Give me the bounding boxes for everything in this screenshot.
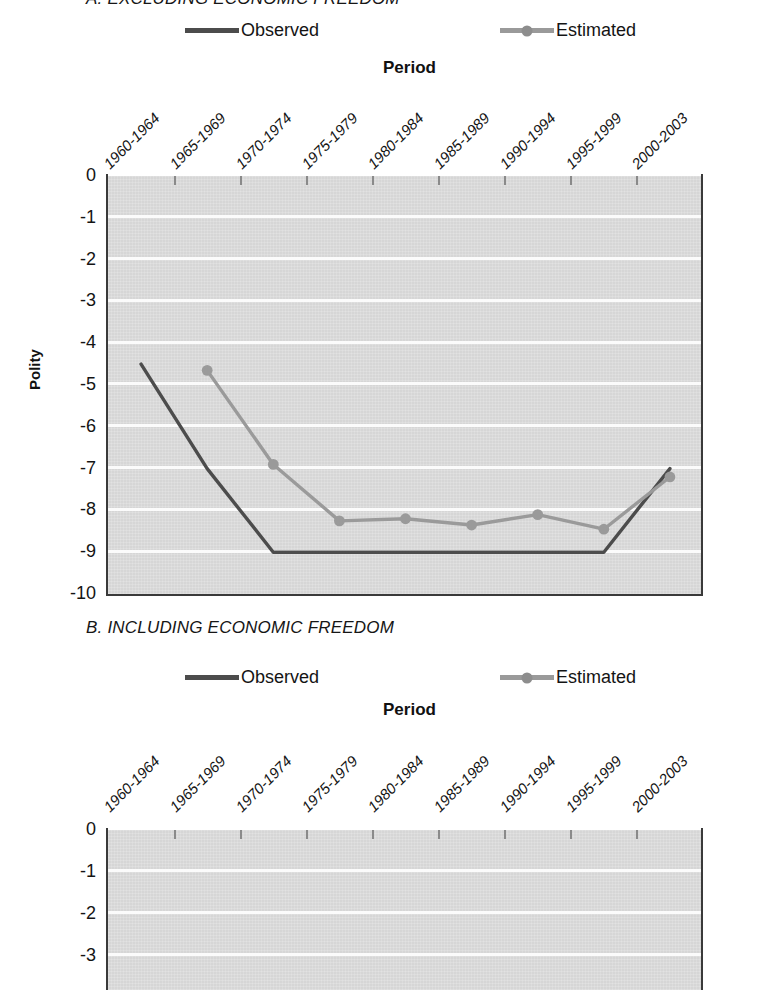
legend-item-observed: Observed (185, 667, 319, 688)
xtick-label: 1965-1969 (166, 752, 229, 815)
data-point-marker (202, 365, 213, 376)
ytick-label: -10 (40, 583, 96, 604)
series-line-estimated (207, 370, 670, 529)
axis-line-bottom (106, 594, 703, 596)
xtick-label: 1995-1999 (562, 752, 625, 815)
legend-label-estimated: Estimated (556, 667, 636, 688)
data-point-marker (268, 459, 279, 470)
xtick-label: 1970-1974 (232, 109, 295, 172)
legend-label-estimated: Estimated (556, 20, 636, 41)
legend-swatch-estimated-icon (500, 28, 554, 33)
ytick-label: -4 (48, 332, 96, 353)
ytick-label: -5 (48, 374, 96, 395)
panel-b-xaxis-title: Period (383, 700, 436, 720)
ytick-label: 0 (48, 165, 96, 186)
ytick-label: -7 (48, 458, 96, 479)
xtick-label: 1995-1999 (562, 109, 625, 172)
xtick-label: 2000-2003 (628, 752, 691, 815)
xtick-label: 1965-1969 (166, 109, 229, 172)
panel-a-yaxis-title: Polity (26, 349, 43, 390)
xtick-label: 2000-2003 (628, 109, 691, 172)
panel-a-title: A. EXCLUDING ECONOMIC FREEDOM (86, 0, 400, 9)
legend-label-observed: Observed (241, 20, 319, 41)
panel-b-series-layer (108, 830, 703, 990)
data-point-marker (334, 515, 345, 526)
figure-root: A. EXCLUDING ECONOMIC FREEDOM Observed E… (0, 0, 769, 990)
legend-swatch-estimated-icon (500, 675, 554, 680)
data-point-marker (665, 472, 676, 483)
ytick-label: -8 (48, 499, 96, 520)
chart-panel-b: B. INCLUDING ECONOMIC FREEDOM Observed E… (0, 610, 769, 990)
ytick-label: 0 (48, 819, 96, 840)
ytick-label: -9 (48, 541, 96, 562)
ytick-label: -2 (48, 903, 96, 924)
xtick-label: 1975-1979 (298, 752, 361, 815)
xtick-label: 1975-1979 (298, 109, 361, 172)
ytick-label: -1 (48, 861, 96, 882)
chart-panel-a: A. EXCLUDING ECONOMIC FREEDOM Observed E… (0, 0, 769, 610)
ytick-label: -3 (48, 945, 96, 966)
axis-line-right (701, 174, 703, 596)
panel-a-xaxis-title: Period (383, 58, 436, 78)
xtick-label: 1985-1989 (430, 752, 493, 815)
ytick-label: -6 (48, 416, 96, 437)
legend-item-estimated: Estimated (500, 667, 636, 688)
data-point-marker (400, 513, 411, 524)
ytick-label: -1 (48, 207, 96, 228)
legend-item-observed: Observed (185, 20, 319, 41)
xtick-label: 1990-1994 (496, 109, 559, 172)
data-point-marker (598, 524, 609, 535)
xtick-label: 1985-1989 (430, 109, 493, 172)
xtick-label: 1970-1974 (232, 752, 295, 815)
xtick-label: 1990-1994 (496, 752, 559, 815)
ytick-label: -3 (48, 290, 96, 311)
data-point-marker (466, 520, 477, 531)
legend-swatch-observed-icon (185, 28, 239, 33)
panel-a-legend: Observed Estimated (0, 20, 769, 42)
legend-item-estimated: Estimated (500, 20, 636, 41)
xtick-label: 1960-1964 (100, 109, 163, 172)
ytick-label: -2 (48, 249, 96, 270)
panel-b-legend: Observed Estimated (0, 667, 769, 689)
legend-swatch-observed-icon (185, 675, 239, 680)
axis-line-right (701, 828, 703, 990)
panel-b-title: B. INCLUDING ECONOMIC FREEDOM (86, 618, 394, 638)
legend-label-observed: Observed (241, 667, 319, 688)
xtick-label: 1960-1964 (100, 752, 163, 815)
panel-b-plot-area (108, 830, 703, 990)
axis-line-left (106, 174, 108, 596)
axis-line-left (106, 828, 108, 990)
panel-a-series-layer (108, 176, 703, 594)
data-point-marker (532, 509, 543, 520)
panel-a-plot-area (108, 176, 703, 594)
xtick-label: 1980-1984 (364, 752, 427, 815)
xtick-label: 1980-1984 (364, 109, 427, 172)
